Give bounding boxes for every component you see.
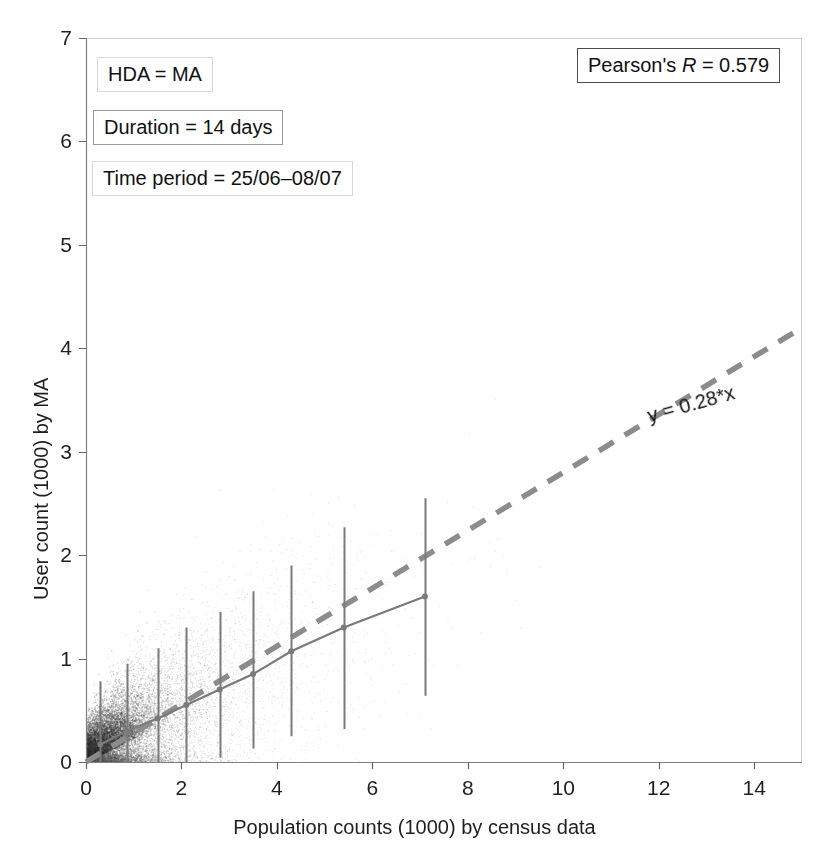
x-tick-label: 6 [367, 776, 379, 800]
scatter-plot-figure: 7 6 5 4 3 2 1 0 0 2 4 6 8 10 12 14 Popul… [0, 0, 829, 856]
y-axis-title: User count (1000) by MA [30, 378, 53, 600]
y-tick-label: 7 [46, 26, 72, 50]
x-tick-label: 0 [80, 776, 92, 800]
y-tick-label: 0 [46, 750, 72, 774]
x-tick-label: 2 [176, 776, 188, 800]
y-tick-label: 4 [46, 336, 72, 360]
y-tick-label: 1 [46, 647, 72, 671]
annotation-hda: HDA = MA [97, 57, 213, 92]
x-tick-label: 4 [271, 776, 283, 800]
x-axis-title: Population counts (1000) by census data [0, 816, 829, 839]
y-tick-label: 6 [46, 129, 72, 153]
x-tick-label: 14 [743, 776, 766, 800]
y-tick-label: 5 [46, 233, 72, 257]
x-tick-label: 10 [552, 776, 575, 800]
pearson-prefix: Pearson's [588, 54, 682, 76]
x-tick-label: 8 [462, 776, 474, 800]
pearson-symbol: R [682, 54, 696, 76]
annotation-duration: Duration = 14 days [93, 110, 283, 145]
pearson-value: = 0.579 [696, 54, 769, 76]
annotation-time-period: Time period = 25/06–08/07 [92, 161, 353, 196]
annotation-pearson-r: Pearson's R = 0.579 [577, 48, 780, 83]
x-tick-label: 12 [647, 776, 670, 800]
